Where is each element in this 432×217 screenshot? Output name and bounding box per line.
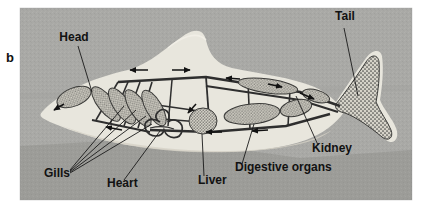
label-gills: Gills: [44, 166, 70, 180]
panel-label-b: b: [6, 50, 14, 65]
label-liver: Liver: [198, 173, 227, 187]
label-tail: Tail: [335, 9, 355, 23]
label-digestive-organs: Digestive organs: [235, 160, 332, 174]
fish-circulatory-diagram: Head Tail Gills Heart Liver Digestive or…: [0, 0, 432, 217]
figure-container: b: [0, 0, 432, 217]
liver-organ: [189, 108, 217, 134]
label-heart: Heart: [107, 176, 138, 190]
label-kidney: Kidney: [312, 141, 352, 155]
label-head: Head: [59, 30, 88, 44]
